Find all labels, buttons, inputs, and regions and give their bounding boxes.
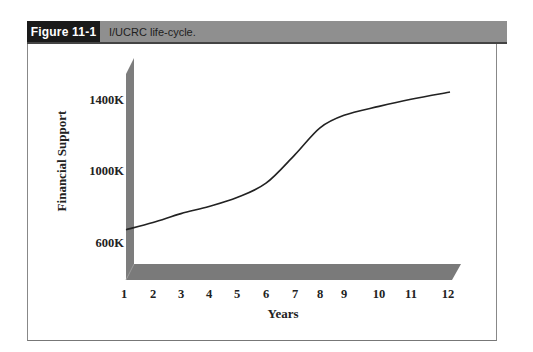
x-tick: 9 (332, 287, 356, 302)
y-axis-label: Financial Support (54, 111, 70, 212)
y-tick-600k: 600K (64, 236, 124, 251)
x-tick: 8 (308, 287, 332, 302)
x-axis-floor (126, 264, 461, 280)
x-tick: 5 (225, 287, 249, 302)
x-tick: 12 (436, 287, 460, 302)
x-tick: 10 (367, 287, 391, 302)
x-tick: 3 (169, 287, 193, 302)
y-tick-1400k: 1400K (64, 93, 124, 108)
x-axis-label: Years (267, 306, 298, 322)
x-tick: 1 (112, 287, 136, 302)
y-tick-1000k: 1000K (64, 164, 124, 179)
y-axis-wall (126, 58, 134, 280)
financial-support-line (126, 92, 450, 230)
x-tick: 6 (254, 287, 278, 302)
x-tick: 4 (197, 287, 221, 302)
x-tick: 11 (399, 287, 423, 302)
x-tick: 7 (283, 287, 307, 302)
x-tick: 2 (141, 287, 165, 302)
